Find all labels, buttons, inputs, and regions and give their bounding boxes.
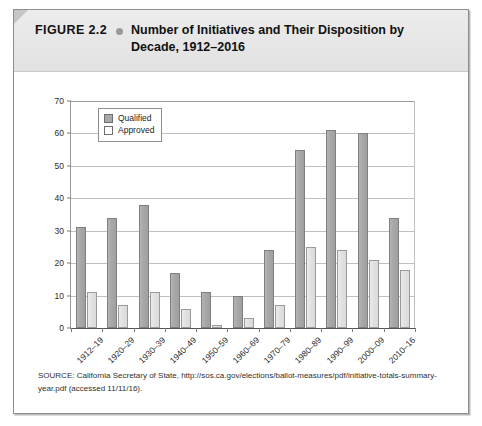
bar-approved <box>306 247 316 328</box>
x-axis-label: 1960–69 <box>231 335 261 365</box>
bar-qualified <box>76 227 86 328</box>
y-axis-tick <box>67 295 71 296</box>
bar-approved <box>400 270 410 328</box>
bar-qualified <box>264 250 274 328</box>
legend-item-approved: Approved <box>104 125 154 136</box>
x-axis-tick <box>352 328 353 332</box>
y-axis-label: 20 <box>55 258 64 268</box>
x-axis-label: 2010–16 <box>387 335 417 365</box>
legend-label-qualified: Qualified <box>118 114 152 123</box>
bar-qualified <box>107 218 117 328</box>
bar-qualified <box>358 133 368 328</box>
figure-title: Number of Initiatives and Their Disposit… <box>131 22 423 57</box>
x-axis-label: 1990–99 <box>324 335 354 365</box>
x-axis-label: 1980–89 <box>293 335 323 365</box>
y-axis-tick <box>67 230 71 231</box>
bar-qualified <box>295 150 305 328</box>
x-axis-tick <box>227 328 228 332</box>
x-axis-label: 1940–49 <box>168 335 198 365</box>
x-axis-tick <box>415 328 416 332</box>
bar-qualified <box>170 273 180 328</box>
y-axis-label: 60 <box>55 128 64 138</box>
y-axis-label: 0 <box>59 323 64 333</box>
chart-plot-area: Qualified Approved 0102030405060701912–1… <box>14 72 468 413</box>
figure-heading: FIGURE 2.2 Number of Initiatives and The… <box>35 22 458 57</box>
bar-approved <box>212 325 222 328</box>
x-axis-tick <box>259 328 260 332</box>
y-axis-label: 40 <box>55 193 64 203</box>
x-axis-label: 2000–09 <box>356 335 386 365</box>
x-axis-label: 1970–79 <box>262 335 292 365</box>
y-axis-label: 50 <box>55 161 64 171</box>
x-axis-tick <box>321 328 322 332</box>
legend-label-approved: Approved <box>118 126 154 135</box>
bar-approved <box>275 305 285 328</box>
x-axis-label: 1950–59 <box>199 335 229 365</box>
bar-qualified <box>201 292 211 328</box>
y-axis-tick <box>67 198 71 199</box>
bar-approved <box>244 318 254 328</box>
x-axis-label: 1912–19 <box>74 335 104 365</box>
figure-title-band: FIGURE 2.2 Number of Initiatives and The… <box>14 10 468 72</box>
bar-approved <box>337 250 347 328</box>
bar-qualified <box>233 296 243 328</box>
bullet-dot-icon <box>116 28 123 35</box>
y-axis-label: 30 <box>55 226 64 236</box>
y-axis-tick <box>67 133 71 134</box>
bar-approved <box>150 292 160 328</box>
y-axis-tick <box>67 263 71 264</box>
x-axis-tick <box>384 328 385 332</box>
bar-approved <box>181 309 191 328</box>
figure-number-label: FIGURE 2.2 <box>35 22 107 37</box>
x-axis-tick <box>71 328 72 332</box>
bar-approved <box>118 305 128 328</box>
y-axis-tick <box>67 165 71 166</box>
x-axis-tick <box>134 328 135 332</box>
y-axis-label: 70 <box>55 96 64 106</box>
x-axis-tick <box>102 328 103 332</box>
chart-axes: Qualified Approved 0102030405060701912–1… <box>70 101 415 329</box>
corner-fold-icon <box>14 10 28 24</box>
x-axis-label: 1920–29 <box>106 335 136 365</box>
bar-qualified <box>326 130 336 328</box>
legend-swatch-qualified <box>104 114 113 123</box>
x-axis-tick <box>165 328 166 332</box>
bar-qualified <box>389 218 399 328</box>
chart-legend: Qualified Approved <box>98 108 162 142</box>
figure-frame: FIGURE 2.2 Number of Initiatives and The… <box>13 9 469 414</box>
x-axis-label: 1930–39 <box>137 335 167 365</box>
y-axis-label: 10 <box>55 291 64 301</box>
x-axis-tick <box>196 328 197 332</box>
bar-qualified <box>139 205 149 328</box>
y-axis-tick <box>67 101 71 102</box>
x-axis-tick <box>290 328 291 332</box>
legend-swatch-approved <box>104 126 113 135</box>
legend-item-qualified: Qualified <box>104 113 154 124</box>
bar-approved <box>87 292 97 328</box>
bar-approved <box>369 260 379 328</box>
source-note: SOURCE: California Secretary of State, h… <box>38 370 444 395</box>
